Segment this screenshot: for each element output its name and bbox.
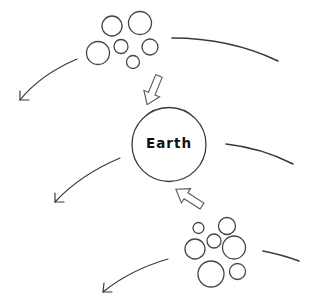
particle-circle-icon (142, 39, 158, 55)
lower-left-flow-arrow (103, 259, 168, 292)
upper-particle-cluster (87, 12, 159, 69)
earth-label: Earth (146, 135, 192, 151)
diagram-svg: Earth (0, 0, 314, 308)
arrow-shaft (55, 158, 120, 202)
middle-right-flow-line (226, 144, 293, 164)
particle-circle-icon (193, 223, 204, 234)
arrow-shaft (103, 259, 168, 292)
earth: Earth (132, 108, 206, 182)
upper-cluster-to-earth-arrow-icon (139, 73, 167, 108)
middle-left-flow-arrow (55, 158, 120, 202)
upper-left-flow-arrow (20, 59, 77, 100)
lower-cluster-to-earth-arrow-icon (171, 182, 206, 213)
particle-circle-icon (223, 236, 246, 259)
particle-circle-icon (219, 218, 236, 235)
lower-particle-cluster (185, 218, 246, 288)
particle-circle-icon (198, 261, 224, 287)
lower-right-flow-line (263, 251, 299, 261)
diagram-canvas: Earth (0, 0, 314, 308)
particle-circle-icon (127, 56, 140, 69)
particle-circle-icon (185, 239, 205, 259)
upper-right-flow-line (172, 38, 278, 61)
particle-circle-icon (207, 234, 221, 248)
particle-circle-icon (102, 16, 122, 36)
particle-circle-icon (87, 42, 110, 65)
particle-circle-icon (230, 264, 246, 280)
particle-circle-icon (114, 40, 128, 54)
arrow-shaft (20, 59, 77, 100)
particle-circle-icon (129, 12, 152, 35)
